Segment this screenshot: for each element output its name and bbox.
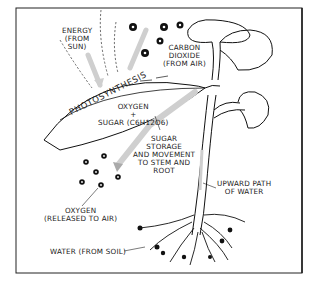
- sugar-storage-line5: ROOT: [133, 167, 195, 175]
- upper-leaves: [188, 20, 273, 129]
- oxygen-released-label: OXYGEN (RELEASED TO AIR): [44, 207, 117, 223]
- co2-label-line3: (FROM AIR): [163, 60, 206, 68]
- plant-stem: [192, 42, 245, 235]
- carbon-dioxide-label: CARBON DIOXIDE (FROM AIR): [163, 44, 206, 68]
- energy-label: ENERGY (FROM SUN): [62, 27, 92, 51]
- oxygen-released-line2: (RELEASED TO AIR): [44, 215, 117, 223]
- oxygen-molecules-icon: [79, 153, 121, 188]
- sugar-product-label: SUGAR (C6H12O6): [98, 119, 169, 127]
- plant-roots: [140, 214, 245, 265]
- products-label: OXYGEN + SUGAR (C6H12O6): [98, 103, 169, 127]
- upward-water-line2: OF WATER: [217, 188, 271, 196]
- upward-water-label: UPWARD PATH OF WATER: [217, 180, 271, 196]
- carbon-dioxide-arrow: [130, 30, 146, 68]
- water-soil-label: WATER (FROM SOIL): [50, 248, 126, 256]
- sugar-storage-label: SUGAR STORAGE AND MOVEMENT TO STEM AND R…: [133, 135, 195, 175]
- energy-label-line3: SUN): [62, 43, 92, 51]
- soil-water-particles-icon: [138, 226, 233, 260]
